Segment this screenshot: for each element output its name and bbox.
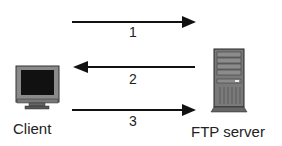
monitor-icon [16, 66, 59, 109]
arrow-3-label: 3 [129, 114, 137, 128]
client-label: Client [13, 121, 51, 136]
server-tower-icon [211, 49, 247, 112]
arrow-2-label: 2 [129, 72, 137, 86]
server-label: FTP server [191, 124, 265, 139]
arrow-1-label: 1 [129, 25, 137, 39]
